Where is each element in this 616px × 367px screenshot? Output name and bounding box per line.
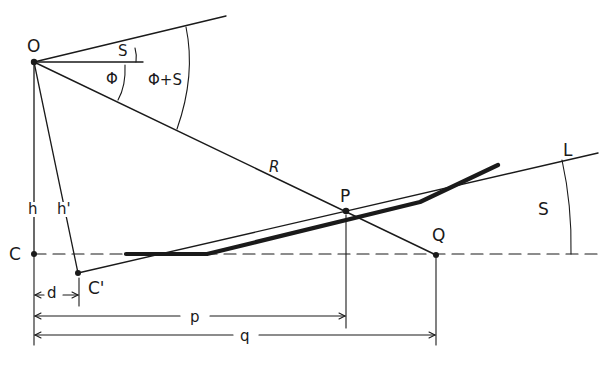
angle-S-right-arc [562, 160, 571, 254]
angle-phi-arc [118, 65, 125, 100]
label-O: O [27, 38, 40, 55]
label-R: R [269, 160, 279, 175]
label-P: P [340, 188, 350, 205]
label-q: q [240, 329, 250, 344]
label-h-prime: h' [57, 202, 71, 217]
label-angle-phi-plus-s: Φ+S [148, 73, 182, 88]
label-angle-S-right: S [538, 201, 549, 218]
label-angle-S-small: S [118, 44, 128, 59]
point-O [31, 59, 37, 65]
line-R [34, 62, 436, 255]
geometry-diagram [0, 0, 616, 367]
line-h-prime [34, 62, 78, 273]
point-P [343, 208, 350, 215]
label-angle-phi: Φ [106, 72, 118, 87]
label-d: d [47, 286, 57, 301]
label-p: p [190, 310, 200, 325]
point-Q [433, 252, 439, 258]
label-Q: Q [432, 227, 445, 244]
label-C: C [9, 246, 21, 263]
label-L: L [563, 142, 572, 159]
label-C-prime: C' [88, 280, 105, 297]
angle-S-arc [135, 48, 136, 62]
point-C [31, 251, 37, 257]
point-C-prime [75, 270, 81, 276]
upper-sight-line [34, 16, 226, 62]
label-h: h [28, 202, 38, 217]
